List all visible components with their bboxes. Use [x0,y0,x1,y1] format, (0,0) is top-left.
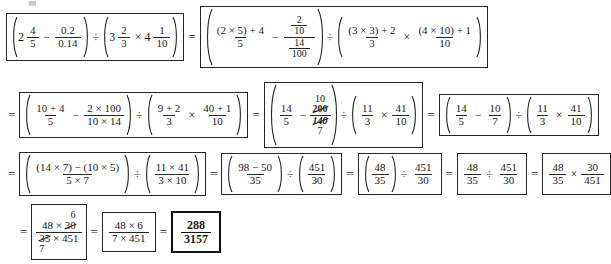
fraction-11-over-3: 11 3 [359,103,376,127]
numerator: 98 − 50 [235,162,275,174]
denominator: 5 [27,37,39,50]
paren-close-icon [391,155,398,193]
paren-open-icon [350,95,357,135]
denominator: 3 [537,115,549,128]
divide-operator: ÷ [93,30,100,45]
equals-sign: = [346,166,353,182]
denominator: 3 [163,115,175,128]
divide-operator: ÷ [401,167,408,182]
numerator: 11 × 41 [153,162,192,174]
paren-open-icon [444,96,451,134]
paren-close-icon [476,16,483,58]
denominator: 7 [489,115,501,128]
denominator: 451 [581,174,604,187]
paren-open-icon [144,154,151,194]
inner-fraction-top: 2 10 [286,15,312,37]
numerator: 9 + 2 [155,103,184,115]
struck-35: 35 [39,233,50,245]
equals-sign: = [8,107,15,123]
paren-close-icon [411,95,418,135]
cancelled-fraction-200-over-140: 10 200 140 7 [310,94,331,136]
paren-open-icon [205,8,212,66]
row-4: = 6 48 × 30 35 × 451 7 = 48 × 6 7 × 451 [16,204,221,260]
fraction-9plus2-over-3: 9 + 2 3 [155,103,184,127]
paren-close-icon [126,94,133,136]
numerator: 10 [487,103,504,115]
equals-sign: = [20,224,27,240]
fraction-11-over-3: 11 3 [534,103,551,127]
times-operator: × [381,108,388,123]
cancellation-below-value: 7 [36,244,44,254]
fraction-10-over-7: 10 7 [487,103,504,127]
denominator: 5 [456,115,468,128]
denominator: 5 [45,115,57,128]
denominator: 5 [280,115,292,128]
fraction-3x3-plus-2-over-3: (3 × 3) + 2 3 [345,25,398,49]
denominator: 7 × 451 [109,232,149,245]
numerator: 451 [306,162,329,174]
paren-open-icon [146,94,153,136]
denominator: 0.14 [55,37,80,50]
fraction-41-over-10: 41 10 [392,103,409,127]
paren-open-icon [11,16,18,58]
paren-open-icon [336,16,343,58]
struck-200: 200 [313,104,328,115]
equals-sign: = [252,107,259,123]
denominator: 10 [568,115,585,128]
denominator: 30 [308,174,325,187]
mixed-number-3-2-3: 3 2 3 [109,25,132,49]
minus-operator: − [44,30,51,45]
numerator: 14 [278,103,295,115]
fraction-48-over-35: 48 35 [464,162,481,186]
paren-close-icon [331,84,338,146]
complex-fraction-2-10-over-14-100: 2 10 14 100 [284,15,315,60]
paren-close-icon [236,94,243,136]
denominator-cancelled: 140 [310,115,331,127]
denominator: 35 [464,174,481,187]
step-7-products: 98 − 50 35 ÷ 451 30 [221,153,342,195]
paren-close-icon [172,16,179,58]
divide-operator: ÷ [136,108,143,123]
denominator: 10 [153,37,170,50]
fraction-11x41-over-3x10: 11 × 41 3 × 10 [153,162,192,186]
row-1: 2 4 5 − 0.2 0.14 ÷ 3 2 [6,6,488,68]
denominator-cancelled-35-times-451: 35 × 451 [36,232,81,245]
numerator: 451 [412,162,435,174]
numerator: 1 [156,25,168,37]
fraction-14-over-5: 14 5 [278,103,295,127]
step-2-improper: (2 × 5) + 4 5 − 2 10 14 100 [200,6,488,68]
row-2: = 10 + 4 5 − 2 × 100 10 × 14 ÷ 9 + 2 [4,82,599,148]
fraction-48x6-over-7x451: 48 × 6 7 × 451 [109,220,149,244]
equals-sign: = [531,166,538,182]
denominator: 3 × 10 [155,174,189,187]
numerator: (14 × 7) − (10 × 5) [33,162,122,174]
paren-close-icon [83,16,90,58]
paren-open-icon [269,84,276,146]
minus-operator: − [272,30,279,45]
equals-sign: = [210,166,217,182]
paren-open-icon [24,154,31,194]
minus-operator: − [73,108,80,123]
step-3-evaluate: 10 + 4 5 − 2 × 100 10 × 14 ÷ 9 + 2 3 × 4… [19,92,248,138]
fraction-451-over-30: 451 30 [412,162,435,186]
fraction-48-over-35: 48 35 [372,162,389,186]
equals-sign: = [427,107,434,123]
denominator: 10 [436,37,453,50]
denominator: 35 [247,174,264,187]
paren-open-icon [363,155,370,193]
whole-part: 4 [144,30,150,45]
numerator: 288 [184,219,208,232]
mixed-number-4-1-10: 4 1 10 [144,25,172,49]
denominator: 3 [118,37,130,50]
denominator: 35 [549,174,566,187]
numerator: 14 [291,38,307,49]
denominator: 3 [362,115,374,128]
paren-close-icon [587,96,594,134]
fraction-41-over-10: 41 10 [568,103,585,127]
denominator: 10 [291,25,307,37]
step-13-answer: 288 3157 [171,211,221,253]
step-6-common-denominator: (14 × 7) − (10 × 5) 5 × 7 ÷ 11 × 41 3 × … [19,152,206,196]
numerator: 2 × 100 [84,103,124,115]
numerator-cancelled: 200 [310,104,331,115]
paren-open-icon [24,94,31,136]
